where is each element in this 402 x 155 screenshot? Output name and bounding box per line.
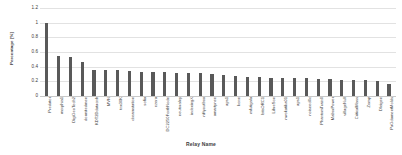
bar[interactable]	[269, 78, 272, 96]
bar[interactable]	[293, 78, 296, 96]
bar[interactable]	[364, 80, 367, 96]
bar-slot	[324, 8, 336, 96]
y-tick-label: 1	[14, 20, 38, 25]
x-label-slot: nwokatika01	[277, 97, 289, 139]
y-tick-label: 0.2	[14, 79, 38, 84]
x-tick-label: Predator	[48, 97, 52, 113]
bar[interactable]	[57, 56, 60, 96]
bar-slot	[301, 8, 313, 96]
bar-slot	[206, 8, 218, 96]
bar[interactable]	[45, 23, 48, 96]
x-tick-label: Dleigen	[379, 97, 383, 111]
x-label-slot: morphia1	[53, 97, 65, 139]
bar-slot	[100, 8, 112, 96]
y-tick-label: 0.8	[14, 35, 38, 40]
x-tick-label: MaborPower	[331, 97, 335, 120]
x-tick-label: tnx30K	[119, 97, 123, 110]
x-label-slot: neutoralny	[171, 97, 183, 139]
x-tick-label: CriticalMass	[355, 97, 359, 119]
x-label-slot: DigiGeoTech2	[65, 97, 77, 139]
bar[interactable]	[246, 77, 249, 96]
x-tick-label: dormitedmen	[84, 97, 88, 121]
bar-slot	[159, 8, 171, 96]
bar[interactable]	[328, 79, 331, 96]
bar[interactable]	[140, 72, 143, 96]
bar-slot	[112, 8, 124, 96]
x-tick-label: neutoralny	[178, 97, 182, 116]
bar[interactable]	[210, 74, 213, 96]
bar[interactable]	[128, 71, 131, 96]
bar[interactable]	[387, 84, 390, 96]
x-label-slot: CriticalMass	[348, 97, 360, 139]
y-axis-title: Percentage [%]	[9, 17, 14, 81]
bar[interactable]	[352, 80, 355, 96]
bar-slot	[312, 8, 324, 96]
bar-slot	[41, 8, 53, 96]
x-label-slot: indexingX	[183, 97, 195, 139]
plot-area	[40, 8, 396, 96]
bar[interactable]	[187, 73, 190, 96]
bar-slot	[76, 8, 88, 96]
x-tick-label: PhantomTrain0	[320, 97, 324, 125]
x-tick-label: MVN	[107, 97, 111, 106]
bar-slot	[135, 8, 147, 96]
bar[interactable]	[175, 73, 178, 96]
bar[interactable]	[104, 70, 107, 96]
x-label-slot: sofia	[135, 97, 147, 139]
bar[interactable]	[305, 78, 308, 96]
x-label-slot: aps1	[289, 97, 301, 139]
x-label-slot: Dleigen	[371, 97, 383, 139]
bar[interactable]	[376, 81, 379, 96]
bar[interactable]	[92, 70, 95, 96]
bar[interactable]	[199, 73, 202, 96]
bar-series	[40, 8, 396, 96]
y-tick-label: 1.2	[14, 6, 38, 11]
bar-slot	[383, 8, 395, 96]
bar-slot	[336, 8, 348, 96]
x-label-slot: bitsORC1	[253, 97, 265, 139]
x-tick-label: mfutigala	[249, 97, 253, 114]
x-label-slot: ezera	[147, 97, 159, 139]
x-label-slot: niftyoutbox	[194, 97, 206, 139]
x-tick-label: KDT2Ddatacnb	[95, 97, 99, 125]
bar[interactable]	[340, 80, 343, 96]
x-tick-label: niftyoutbox	[202, 97, 206, 117]
x-label-slot: DC2250ForthNode	[159, 97, 171, 139]
x-label-slot: MaborPower	[324, 97, 336, 139]
bar[interactable]	[258, 77, 261, 96]
x-tick-label: morphia1	[60, 97, 64, 114]
y-tick-label: 0.4	[14, 64, 38, 69]
x-tick-label: noiseed0c	[308, 97, 312, 116]
bar-slot	[253, 8, 265, 96]
y-axis-tick-labels: 00.20.40.60.811.2	[14, 8, 38, 96]
bar[interactable]	[151, 72, 154, 96]
bar[interactable]	[234, 76, 237, 96]
x-tick-label: LibreSon	[272, 97, 276, 113]
bar-slot	[348, 8, 360, 96]
x-tick-label: aps1	[225, 97, 229, 106]
bar-slot	[88, 8, 100, 96]
bar[interactable]	[163, 72, 166, 96]
bar[interactable]	[222, 75, 225, 96]
y-tick-label: 0.6	[14, 50, 38, 55]
bar[interactable]	[81, 62, 84, 96]
x-label-slot: dormitedmen	[76, 97, 88, 139]
x-label-slot: Predator	[41, 97, 53, 139]
x-tick-label: Zomp	[367, 97, 371, 107]
bar-slot	[277, 8, 289, 96]
x-label-slot: PaGdamentMolds	[383, 97, 395, 139]
bar[interactable]	[69, 57, 72, 96]
bar[interactable]	[116, 70, 119, 96]
x-tick-label: bitsORC1	[261, 97, 265, 115]
x-tick-label: PaGdamentMolds	[390, 97, 394, 130]
bar-slot	[183, 8, 195, 96]
bar[interactable]	[281, 78, 284, 96]
bar-slot	[194, 8, 206, 96]
bar[interactable]	[317, 79, 320, 96]
x-tick-label: DC2250ForthNode	[166, 97, 170, 131]
x-tick-label: dreamstation	[131, 97, 135, 121]
y-tick-label: 0	[14, 94, 38, 99]
bar-slot	[371, 8, 383, 96]
x-label-slot: PhantomTrain0	[312, 97, 324, 139]
x-label-slot: dreamstation	[124, 97, 136, 139]
